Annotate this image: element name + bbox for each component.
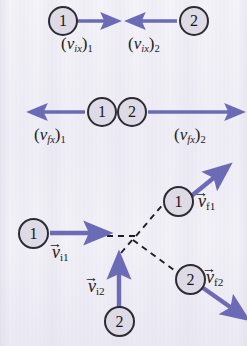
disc-label: 2: [190, 13, 198, 29]
vector-arrow-accent: →: [84, 270, 98, 284]
disc-label: 1: [59, 13, 67, 29]
subscript-f1: f1: [206, 200, 215, 212]
dashed-path-outgoing-2: [133, 240, 178, 273]
subscript-i1: i1: [60, 251, 69, 263]
label-vix-1: (vix)1: [61, 35, 93, 52]
disc-ball-2-final-x: 2: [117, 97, 147, 127]
label-vf2: →vf2: [206, 268, 223, 286]
index-2: 2: [201, 134, 206, 145]
subscript-fx: fx: [47, 134, 55, 145]
collision-diagram-figure: 1 2 (vix)1 (vix)2 1 2 (vfx)1 (vfx)2 1 2 …: [0, 0, 247, 346]
disc-ball-2-initial-x: 2: [179, 6, 209, 36]
label-vi1: →vi1: [52, 243, 69, 261]
index-2: 2: [155, 43, 160, 54]
subscript-f2: f2: [214, 276, 223, 288]
close-paren: ): [195, 125, 201, 144]
close-paren: ): [149, 34, 155, 53]
disc-label: 2: [128, 104, 136, 120]
vector-canvas: [0, 0, 247, 346]
disc-ball-2-incoming: 2: [104, 306, 135, 337]
disc-label: 2: [187, 271, 195, 287]
disc-ball-1-outgoing: 1: [163, 186, 194, 217]
disc-label: 1: [30, 225, 38, 241]
disc-label: 2: [116, 313, 124, 329]
dashed-path-incoming-2: [121, 239, 133, 253]
vector-arrow-accent: →: [194, 185, 208, 199]
index-1: 1: [88, 43, 93, 54]
subscript-i2: i2: [96, 285, 105, 297]
label-vix-2: (vix)2: [128, 35, 160, 52]
label-vfx-2: (vfx)2: [174, 126, 206, 143]
subscript-ix: ix: [141, 43, 149, 54]
disc-ball-1-final-x: 1: [87, 97, 117, 127]
disc-label: 1: [175, 193, 183, 209]
label-vi2: →vi2: [88, 277, 105, 295]
label-vfx-1: (vfx)1: [34, 126, 66, 143]
disc-ball-1-incoming: 1: [18, 218, 49, 249]
label-vf1: →vf1: [198, 192, 215, 210]
subscript-ix: ix: [74, 43, 82, 54]
disc-ball-1-initial-x: 1: [48, 6, 78, 36]
vector-arrow-accent: →: [48, 236, 62, 250]
close-paren: ): [82, 34, 88, 53]
index-1: 1: [61, 134, 66, 145]
vector-arrow-accent: →: [202, 261, 216, 275]
disc-label: 1: [98, 104, 106, 120]
close-paren: ): [55, 125, 61, 144]
subscript-fx: fx: [187, 134, 195, 145]
